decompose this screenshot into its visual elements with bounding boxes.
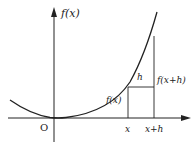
y-axis [51,7,57,142]
x-axis-arrow-icon [181,115,191,121]
increment-label: h [137,72,143,82]
fxh-segment-label: f(x+h) [156,75,186,85]
y-axis-arrow-icon [51,7,57,17]
y-axis-label: f(x) [60,7,80,20]
function-diagram: f(x) O x x+h f(x) f(x+h) h [0,0,194,149]
origin-label: O [40,122,48,133]
x-plus-h-tick-label: x+h [145,124,163,134]
x-axis [8,115,191,121]
function-curve [10,12,157,118]
x-tick-label: x [125,124,130,134]
fx-segment-label: f(x) [105,95,122,105]
